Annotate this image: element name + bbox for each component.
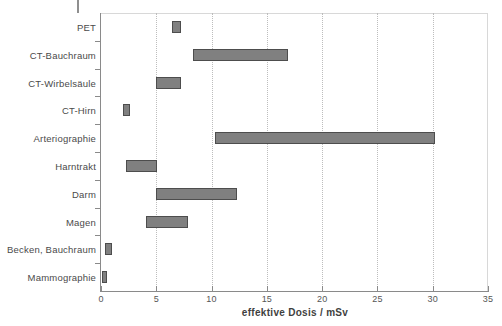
gridline-5: [156, 13, 157, 291]
range-bar-4: [215, 132, 435, 144]
range-bar-7: [146, 216, 188, 228]
x-tick-30: [433, 286, 434, 292]
effective-dose-range-chart: 05101520253035 PETCT-BauchraumCT-Wirbels…: [0, 0, 502, 326]
x-tick-label-10: 10: [192, 294, 232, 304]
x-axis-title: effektive Dosis / mSv: [101, 307, 489, 318]
range-bar-3: [123, 104, 130, 116]
x-tick-20: [322, 286, 323, 292]
range-bar-1: [193, 49, 288, 61]
category-label-5: Harntrakt: [0, 160, 96, 171]
category-label-9: Mammographie: [0, 272, 96, 283]
category-label-2: CT-Wirbelsäule: [0, 77, 96, 88]
gridline-25: [377, 13, 378, 291]
x-tick-15: [267, 286, 268, 292]
gridline-20: [322, 13, 323, 291]
category-label-8: Becken, Bauchraum: [0, 244, 96, 255]
y-tick-5: [95, 152, 101, 153]
x-tick-label-15: 15: [247, 294, 287, 304]
gridline-30: [433, 13, 434, 291]
x-tick-0: [101, 286, 102, 292]
y-tick-2: [95, 69, 101, 70]
category-label-1: CT-Bauchraum: [0, 49, 96, 60]
y-tick-8: [95, 235, 101, 236]
y-tick-3: [95, 96, 101, 97]
x-axis-line: [101, 291, 489, 292]
scan-artifact-mark: [77, 0, 79, 13]
range-bar-5: [126, 160, 157, 172]
y-tick-4: [95, 124, 101, 125]
plot-area: [101, 13, 488, 291]
category-label-3: CT-Hirn: [0, 105, 96, 116]
category-label-6: Darm: [0, 188, 96, 199]
x-tick-label-20: 20: [302, 294, 342, 304]
x-tick-35: [488, 286, 489, 292]
range-bar-2: [156, 77, 180, 89]
y-tick-9: [95, 263, 101, 264]
x-tick-25: [377, 286, 378, 292]
range-bar-0: [172, 21, 181, 33]
x-tick-label-0: 0: [81, 294, 121, 304]
range-bar-9: [102, 271, 106, 283]
range-bar-8: [105, 243, 112, 255]
x-tick-label-35: 35: [468, 294, 502, 304]
x-tick-label-25: 25: [357, 294, 397, 304]
x-tick-label-30: 30: [413, 294, 453, 304]
x-tick-label-5: 5: [136, 294, 176, 304]
range-bar-6: [156, 188, 237, 200]
y-tick-1: [95, 41, 101, 42]
y-tick-6: [95, 180, 101, 181]
category-label-0: PET: [0, 21, 96, 32]
y-tick-7: [95, 208, 101, 209]
category-label-7: Magen: [0, 216, 96, 227]
x-tick-5: [156, 286, 157, 292]
category-label-4: Arteriographie: [0, 133, 96, 144]
x-tick-10: [212, 286, 213, 292]
